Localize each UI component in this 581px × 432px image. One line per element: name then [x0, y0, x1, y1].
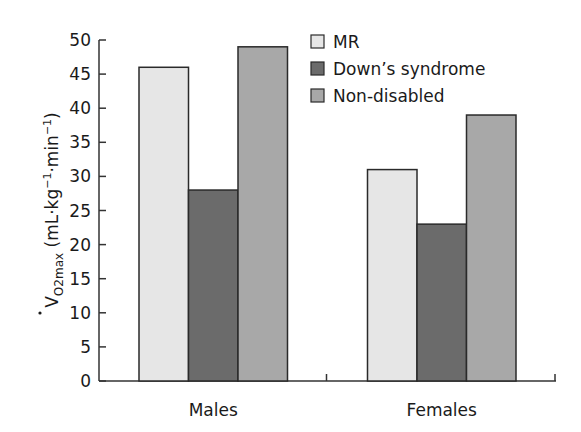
bar-chart: 05101520253035404550 MalesFemales MRDown…: [0, 0, 581, 432]
legend-label: MR: [333, 32, 360, 52]
bar: [189, 190, 239, 381]
y-tick-label: 15: [69, 269, 91, 289]
y-axis: 05101520253035404550: [69, 30, 106, 391]
legend: MRDown’s syndromeNon-disabled: [311, 32, 485, 106]
bar: [139, 67, 189, 381]
y-tick-label: 35: [69, 132, 91, 152]
legend-swatch: [311, 62, 324, 75]
bar: [368, 170, 418, 381]
y-tick-label: 40: [69, 98, 91, 118]
y-tick-label: 0: [80, 371, 91, 391]
y-tick-label: 10: [69, 303, 91, 323]
y-tick-label: 20: [69, 235, 91, 255]
bar: [238, 47, 288, 381]
legend-label: Down’s syndrome: [333, 59, 485, 79]
y-tick-label: 30: [69, 166, 91, 186]
bar: [467, 115, 517, 381]
legend-swatch: [311, 89, 324, 102]
x-category-label: Males: [189, 400, 238, 420]
y-tick-label: 45: [69, 64, 91, 84]
y-axis-label: VO2max (mL·kg−1·min−1): [38, 112, 66, 314]
v-dot-accent: [38, 311, 41, 314]
legend-swatch: [311, 35, 324, 48]
y-tick-label: 25: [69, 201, 91, 221]
y-axis-label-text: VO2max (mL·kg−1·min−1): [41, 112, 66, 308]
y-tick-label: 50: [69, 30, 91, 50]
bar: [417, 224, 467, 381]
x-category-label: Females: [407, 400, 477, 420]
legend-label: Non-disabled: [333, 86, 445, 106]
bars: [139, 47, 516, 381]
y-tick-label: 5: [80, 337, 91, 357]
